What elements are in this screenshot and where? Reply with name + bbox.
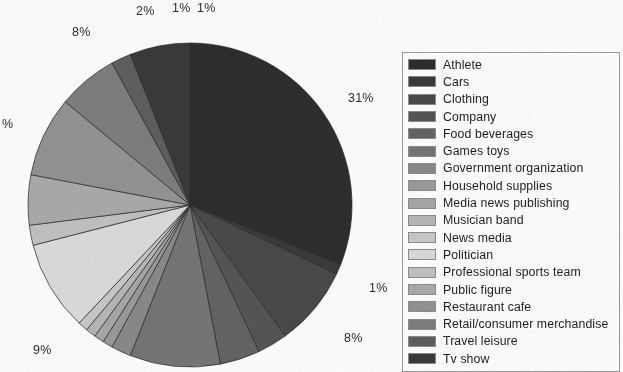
pie-svg [0, 0, 400, 372]
legend-item-label: Media news publishing [443, 196, 570, 210]
legend-item[interactable]: Public figure [408, 281, 619, 298]
legend-color-swatch [408, 215, 436, 226]
legend-item[interactable]: Games toys [408, 142, 619, 159]
legend-item-label: Politician [443, 248, 493, 262]
legend-item-label: Travel leisure [443, 334, 518, 348]
legend-color-swatch [408, 128, 436, 139]
legend-item-label: Cars [443, 75, 469, 89]
slice-percent-label: 8% [344, 331, 362, 345]
legend-color-swatch [408, 94, 436, 105]
pie-chart-figure: 31%1%8%9%%8%2%1%1% AthleteCarsClothingCo… [0, 0, 623, 372]
legend-color-swatch [408, 353, 436, 364]
legend-item[interactable]: Athlete [408, 56, 619, 73]
legend-color-swatch [408, 319, 436, 330]
legend-color-swatch [408, 111, 436, 122]
legend-item-label: Household supplies [443, 179, 552, 193]
legend-rows: AthleteCarsClothingCompanyFood beverages… [408, 56, 619, 367]
slice-percent-label: 9% [33, 343, 51, 357]
slice-percent-label: % [2, 117, 13, 131]
legend-item[interactable]: News media [408, 229, 619, 246]
legend-color-swatch [408, 198, 436, 209]
legend-item[interactable]: Musician band [408, 212, 619, 229]
legend-item-label: Company [443, 110, 496, 124]
legend-item-label: News media [443, 231, 512, 245]
legend-color-swatch [408, 284, 436, 295]
legend-color-swatch [408, 232, 436, 243]
legend-item[interactable]: Professional sports team [408, 264, 619, 281]
legend-color-swatch [408, 163, 436, 174]
chart-legend: AthleteCarsClothingCompanyFood beverages… [402, 52, 620, 372]
legend-item[interactable]: Tv show [408, 350, 619, 367]
legend-color-swatch [408, 146, 436, 157]
legend-item[interactable]: Cars [408, 73, 619, 90]
legend-item-label: Clothing [443, 92, 489, 106]
slice-percent-label: 2% [136, 4, 154, 18]
legend-color-swatch [408, 267, 436, 278]
slice-percent-label: 1% [369, 281, 387, 295]
legend-color-swatch [408, 59, 436, 70]
legend-item[interactable]: Food beverages [408, 125, 619, 142]
pie-slices [28, 43, 352, 367]
legend-item[interactable]: Media news publishing [408, 194, 619, 211]
legend-item-label: Food beverages [443, 127, 533, 141]
legend-item-label: Restaurant cafe [443, 300, 531, 314]
pie-plot-area: 31%1%8%9%%8%2%1%1% [0, 0, 400, 372]
legend-item[interactable]: Company [408, 108, 619, 125]
legend-color-swatch [408, 301, 436, 312]
legend-item[interactable]: Restaurant cafe [408, 298, 619, 315]
legend-color-swatch [408, 76, 436, 87]
legend-color-swatch [408, 180, 436, 191]
legend-item-label: Public figure [443, 283, 512, 297]
slice-percent-label: 31% [348, 91, 374, 105]
legend-item[interactable]: Travel leisure [408, 333, 619, 350]
legend-item-label: Tv show [443, 352, 489, 366]
slice-percent-label: 8% [72, 25, 90, 39]
legend-item-label: Musician band [443, 213, 524, 227]
legend-item[interactable]: Retail/consumer merchandise [408, 315, 619, 332]
legend-item[interactable]: Household supplies [408, 177, 619, 194]
legend-item-label: Athlete [443, 58, 482, 72]
legend-item[interactable]: Politician [408, 246, 619, 263]
legend-item[interactable]: Clothing [408, 91, 619, 108]
slice-percent-label: 1% [197, 1, 215, 15]
legend-item-label: Retail/consumer merchandise [443, 317, 608, 331]
legend-color-swatch [408, 249, 436, 260]
legend-item-label: Government organization [443, 161, 583, 175]
legend-color-swatch [408, 336, 436, 347]
legend-item-label: Professional sports team [443, 265, 581, 279]
slice-percent-label: 1% [172, 1, 190, 15]
legend-item[interactable]: Government organization [408, 160, 619, 177]
legend-item-label: Games toys [443, 144, 510, 158]
